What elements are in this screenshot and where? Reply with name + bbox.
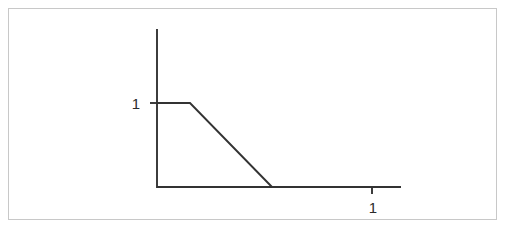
figure-root: 1 1 <box>0 0 507 230</box>
y-axis-tick-label-1: 1 <box>128 96 144 111</box>
plot-canvas <box>0 0 507 230</box>
data-series-piecewise-linear <box>157 103 272 187</box>
x-axis-tick-label-1: 1 <box>365 200 381 215</box>
